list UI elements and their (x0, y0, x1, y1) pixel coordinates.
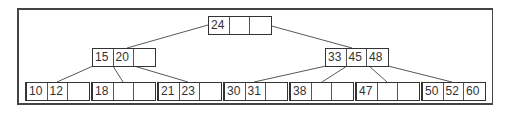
key-cell: 52 (444, 83, 465, 100)
leaf-node: 47 (355, 82, 420, 101)
key-cell: 15 (93, 49, 114, 66)
key-cell: 31 (246, 83, 267, 100)
key-cell: 50 (423, 83, 444, 100)
internal-node-right: 33 45 48 (325, 48, 389, 67)
key-cell: 48 (367, 49, 388, 66)
key-cell (200, 83, 221, 100)
leaf-node: 38 (289, 82, 354, 101)
edge-r-leaf5 (322, 66, 347, 82)
root-node: 24 (208, 16, 272, 35)
leaf-node: 21 23 (157, 82, 222, 101)
leaf-node: 18 (91, 82, 156, 101)
edge-l-leaf3 (134, 66, 188, 82)
key-cell (134, 49, 155, 66)
edge-r-leaf7 (388, 66, 452, 82)
key-cell (398, 83, 419, 100)
edge-l-leaf1 (57, 66, 93, 82)
internal-node-left: 15 20 (92, 48, 156, 67)
key-cell (312, 83, 333, 100)
key-cell: 47 (357, 83, 378, 100)
key-cell: 10 (27, 83, 48, 100)
key-cell (114, 83, 135, 100)
edge-r-leaf4 (254, 66, 326, 82)
edge-root-left (127, 25, 208, 48)
key-cell: 60 (464, 83, 485, 100)
leaf-node: 30 31 (223, 82, 288, 101)
key-cell: 23 (180, 83, 201, 100)
key-cell: 21 (159, 83, 180, 100)
key-cell: 33 (326, 49, 347, 66)
edge-root-right (268, 25, 352, 48)
leaf-node: 10 12 (25, 82, 90, 101)
key-cell: 12 (48, 83, 69, 100)
key-cell (68, 83, 89, 100)
key-cell: 38 (291, 83, 312, 100)
key-cell (230, 17, 251, 34)
key-cell: 18 (93, 83, 114, 100)
key-cell (134, 83, 155, 100)
key-cell (332, 83, 353, 100)
key-cell: 30 (225, 83, 246, 100)
key-cell (250, 17, 271, 34)
key-cell: 20 (114, 49, 135, 66)
key-cell: 45 (347, 49, 368, 66)
edge-l-leaf2 (113, 66, 123, 82)
key-cell: 24 (209, 17, 230, 34)
key-cell (378, 83, 399, 100)
leaf-node: 50 52 60 (421, 82, 486, 101)
key-cell (266, 83, 287, 100)
edge-r-leaf6 (369, 66, 387, 82)
